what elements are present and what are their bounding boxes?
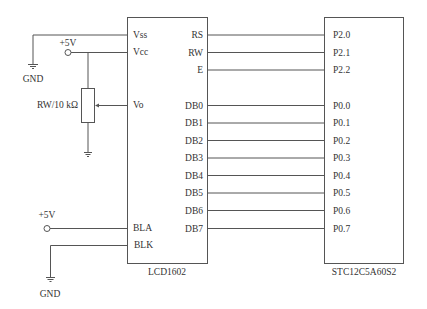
mcu-pin-label: P0.2 — [333, 136, 350, 146]
lcd-pin-db0-label: DB0 — [185, 101, 203, 111]
vss-wire — [33, 35, 127, 64]
ground-symbol-bottom — [46, 278, 55, 282]
lcd-pin-db3-label: DB3 — [185, 153, 203, 163]
mcu-pin-label: P2.2 — [333, 65, 350, 75]
vcc-top-label: +5V — [60, 38, 77, 48]
blk-wire — [51, 246, 128, 278]
mcu-pin-label: P0.5 — [333, 188, 350, 198]
mcu-pin-label: P0.0 — [333, 101, 350, 111]
pin-blk-label: BLK — [134, 240, 153, 250]
mcu-pin-label: P0.6 — [333, 206, 350, 216]
lcd-pin-rs-label: RS — [191, 30, 203, 40]
mcu-label: STC12C5A60S2 — [332, 267, 397, 277]
lcd-connection-diagram: LCD1602 STC12C5A60S2 Vss Vcc Vo BLA BLK … — [0, 0, 427, 309]
lcd-pin-db5-label: DB5 — [185, 188, 203, 198]
ground-symbol-top — [28, 65, 38, 69]
vcc-top-terminal — [65, 50, 71, 56]
vcc-bottom-label: +5V — [39, 210, 56, 220]
lcd-pin-db7-label: DB7 — [185, 224, 203, 234]
potentiometer-label: RW/10 kΩ — [37, 100, 78, 110]
lcd-pin-db6-label: DB6 — [185, 206, 203, 216]
lcd-pin-db1-label: DB1 — [185, 118, 203, 128]
pin-bla-label: BLA — [133, 223, 152, 233]
wiper-arrow-icon — [95, 104, 99, 108]
mcu-pin-label: P0.7 — [333, 224, 350, 234]
mcu-pin-label: P2.1 — [333, 48, 350, 58]
lcd1602-label: LCD1602 — [148, 267, 186, 277]
potentiometer — [82, 89, 95, 123]
lcd-pin-db4-label: DB4 — [185, 171, 203, 181]
pin-vo-label: Vo — [133, 100, 144, 110]
ground-symbol-pot — [84, 153, 92, 157]
lcd-pin-e-label: E — [197, 65, 203, 75]
mcu-pin-label: P0.4 — [333, 171, 350, 181]
mcu-pin-label: P2.0 — [333, 30, 350, 40]
gnd-bottom-label: GND — [40, 289, 61, 299]
mcu-pin-label: P0.1 — [333, 118, 350, 128]
mcu-pin-label: P0.3 — [333, 153, 350, 163]
lcd-pin-db2-label: DB2 — [185, 136, 203, 146]
pin-vcc-label: Vcc — [133, 47, 148, 57]
lcd-pin-rw-label: RW — [188, 48, 203, 58]
vcc-bottom-terminal — [44, 226, 50, 232]
gnd-top-label: GND — [23, 74, 44, 84]
pin-vss-label: Vss — [133, 30, 148, 40]
